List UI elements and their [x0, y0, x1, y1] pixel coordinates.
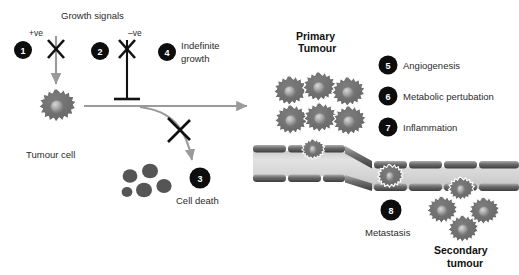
tumour-cell-label: Tumour cell — [26, 149, 75, 160]
background — [0, 0, 519, 275]
cell-death-label: Cell death — [176, 195, 219, 206]
step-badge-8-number: 8 — [388, 206, 393, 216]
positive-ve-label: +ve — [29, 28, 43, 38]
legend-label-angiogenesis: Angiogenesis — [403, 60, 460, 71]
step-badge-4: 4 — [158, 43, 176, 61]
primary-tumour-line2: Tumour — [298, 42, 336, 54]
indefinite-growth-line2: growth — [181, 53, 210, 64]
step-badge-3-number: 3 — [197, 174, 202, 184]
secondary-tumour-line1: Secondary — [434, 244, 488, 256]
step-badge-5-number: 5 — [385, 61, 390, 71]
step-badge-3: 3 — [190, 168, 211, 189]
secondary-tumour-line2: tumour — [447, 257, 483, 269]
legend-label-inflammation: Inflammation — [403, 122, 457, 133]
step-badge-1-number: 1 — [20, 46, 25, 56]
primary-tumour-cluster — [274, 72, 367, 136]
step-badge-2: 2 — [91, 42, 109, 60]
diagram-svg: Growth signals +ve 1 –ve 2 — [0, 0, 519, 275]
legend-label-metabolic-pertubation: Metabolic pertubation — [403, 91, 494, 102]
step-badge-1: 1 — [14, 41, 32, 59]
step-badge-8: 8 — [381, 200, 402, 221]
figure-canvas: Growth signals +ve 1 –ve 2 — [0, 0, 519, 275]
step-badge-6-number: 6 — [385, 92, 390, 102]
primary-tumour-line1: Primary — [296, 30, 335, 42]
indefinite-growth-line1: Indefinite — [181, 40, 220, 51]
metastasis-label: Metastasis — [365, 227, 411, 238]
step-badge-2-number: 2 — [97, 47, 102, 57]
step-badge-4-number: 4 — [164, 48, 169, 58]
growth-signals-label: Growth signals — [61, 10, 124, 21]
negative-ve-label: –ve — [128, 28, 142, 38]
step-badge-7-number: 7 — [385, 123, 390, 133]
